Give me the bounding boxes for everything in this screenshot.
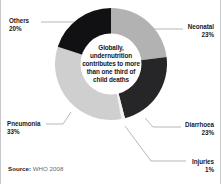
slice-label-pneumonia-name: Pneumonia	[7, 120, 41, 127]
slice-label-pneumonia: Pneumonia 33%	[7, 120, 41, 135]
source-value: WHO 2008	[33, 165, 64, 172]
slice-label-others-pct: 20%	[9, 25, 29, 33]
slice-label-others: Others 20%	[9, 17, 29, 32]
center-line-2: undernutrition	[90, 52, 132, 60]
slice-label-injuries-name: Injuries	[192, 158, 214, 165]
center-line-4: than one third of	[87, 68, 135, 76]
slice-label-others-name: Others	[9, 17, 29, 24]
slice-label-neonatal-name: Neonatal	[188, 23, 214, 30]
source-label: Source:	[8, 165, 31, 172]
center-annotation: Globally, undernutrition contributes to …	[72, 41, 150, 87]
slice-label-neonatal-pct: 23%	[188, 31, 214, 39]
center-line-5: child deaths	[93, 76, 129, 84]
center-line-1: Globally,	[98, 44, 123, 52]
slice-label-diarrhoea-pct: 23%	[185, 129, 214, 137]
slice-label-injuries: Injuries 1%	[192, 158, 214, 173]
slice-label-injuries-pct: 1%	[192, 166, 214, 174]
slice-label-pneumonia-pct: 33%	[7, 128, 41, 136]
donut-chart-figure: Globally, undernutrition contributes to …	[0, 0, 221, 184]
center-line-3: contributes to more	[82, 60, 140, 68]
leader-line-injuries	[125, 126, 186, 161]
source-note: Source: WHO 2008	[8, 165, 63, 173]
slice-label-diarrhoea-name: Diarrhoea	[185, 121, 214, 128]
slice-label-diarrhoea: Diarrhoea 23%	[185, 121, 214, 136]
slice-label-neonatal: Neonatal 23%	[188, 23, 214, 38]
